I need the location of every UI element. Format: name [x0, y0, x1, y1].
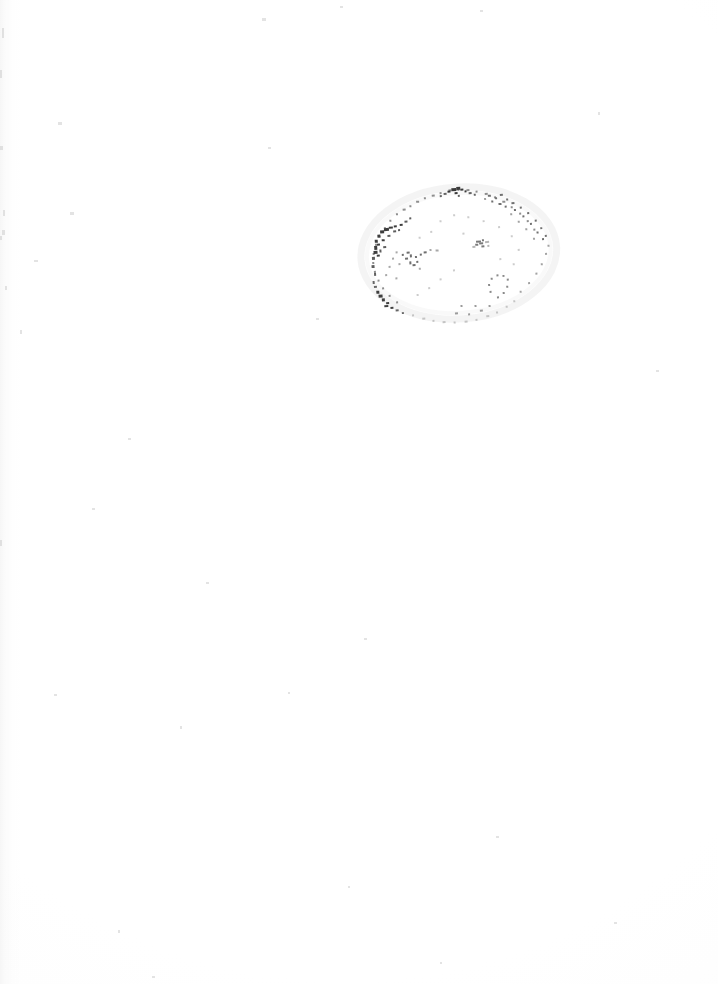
scanned-page — [0, 0, 718, 984]
paper-tone-overlay — [0, 0, 718, 984]
scan-noise-overlay — [0, 0, 718, 984]
oval-stamp-impression — [347, 174, 571, 339]
